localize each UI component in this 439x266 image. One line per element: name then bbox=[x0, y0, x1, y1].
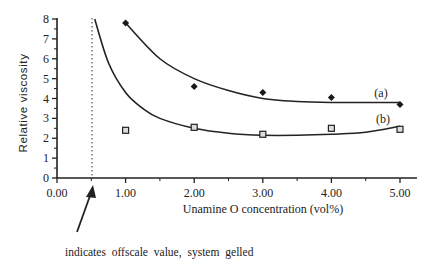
x-tick-label: 0.00 bbox=[47, 186, 68, 200]
y-tick-label: 7 bbox=[43, 32, 49, 46]
data-point-b bbox=[260, 131, 266, 137]
data-point-b bbox=[123, 127, 129, 133]
y-axis-title: Relative viscosity bbox=[17, 54, 29, 153]
x-tick-label: 1.00 bbox=[115, 186, 136, 200]
x-tick-label: 3.00 bbox=[252, 186, 273, 200]
data-point-b bbox=[328, 125, 334, 131]
y-tick-label: 1 bbox=[43, 151, 49, 165]
y-tick-label: 3 bbox=[43, 111, 49, 125]
x-tick-label: 2.00 bbox=[184, 186, 205, 200]
series-a-markers bbox=[122, 19, 403, 107]
axes bbox=[57, 18, 417, 178]
offscale-note: indicates offscale value, system gelled bbox=[65, 246, 254, 259]
x-axis-title: Unamine O concentration (vol%) bbox=[183, 202, 343, 216]
y-ticks: 012345678 bbox=[43, 12, 57, 185]
y-tick-label: 2 bbox=[43, 131, 49, 145]
data-point-b bbox=[191, 124, 197, 130]
viscosity-chart: 012345678 0.001.002.003.004.005.00 Relat… bbox=[0, 0, 439, 266]
series-b-markers bbox=[123, 124, 403, 137]
data-point-b bbox=[397, 126, 403, 132]
y-tick-label: 4 bbox=[43, 92, 49, 106]
y-tick-label: 6 bbox=[43, 52, 49, 66]
y-tick-label: 0 bbox=[43, 171, 49, 185]
y-tick-label: 8 bbox=[43, 12, 49, 26]
data-point-a bbox=[328, 94, 335, 101]
data-point-a bbox=[259, 89, 266, 96]
x-tick-label: 5.00 bbox=[390, 186, 411, 200]
x-ticks: 0.001.002.003.004.005.00 bbox=[47, 178, 411, 200]
offscale-arrow-icon bbox=[77, 185, 96, 232]
data-point-a bbox=[191, 83, 198, 90]
series-b-label: (b) bbox=[376, 112, 390, 126]
fit-curve-b bbox=[95, 19, 400, 135]
y-tick-label: 5 bbox=[43, 72, 49, 86]
x-tick-label: 4.00 bbox=[321, 186, 342, 200]
series-a-label: (a) bbox=[374, 86, 387, 100]
